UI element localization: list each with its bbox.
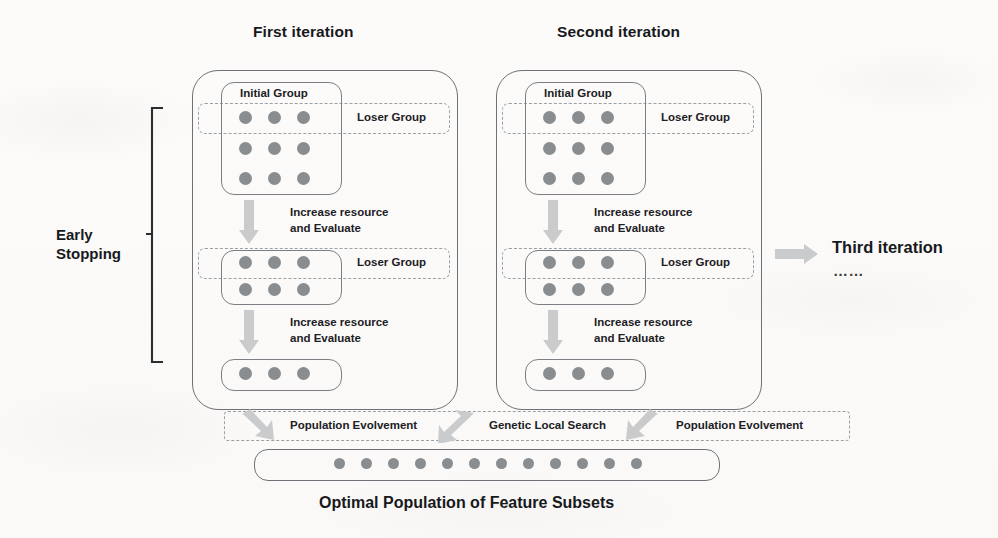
iteration-1-transition-1-arrow-icon bbox=[238, 200, 260, 249]
population-dot bbox=[601, 367, 614, 380]
population-dot bbox=[297, 283, 310, 296]
population-dot bbox=[239, 283, 252, 296]
iteration-2-transition-2-arrow-icon bbox=[542, 310, 564, 359]
population-dot bbox=[601, 111, 614, 124]
final-population-dot bbox=[523, 458, 534, 469]
iteration-2-stage-1-loser-group-label: Loser Group bbox=[661, 111, 730, 123]
final-population-dot bbox=[604, 458, 615, 469]
third-iteration-ellipsis: …… bbox=[833, 262, 864, 279]
final-population-dot bbox=[577, 458, 588, 469]
population-dot bbox=[297, 367, 310, 380]
population-dot bbox=[297, 256, 310, 269]
iteration-1-stage-1-group-label: Initial Group bbox=[240, 87, 308, 99]
population-dot bbox=[543, 283, 556, 296]
iteration-2-stage-1-group-label: Initial Group bbox=[544, 87, 612, 99]
third-iteration-arrow-icon bbox=[775, 243, 819, 269]
population-dot bbox=[268, 172, 281, 185]
population-dot bbox=[572, 283, 585, 296]
iteration-2-transition-2-label-line2: and Evaluate bbox=[594, 331, 665, 347]
population-dot bbox=[239, 142, 252, 155]
population-dot bbox=[601, 142, 614, 155]
early-stopping-bracket bbox=[145, 106, 171, 370]
population-dot bbox=[268, 283, 281, 296]
final-population-dot bbox=[388, 458, 399, 469]
population-dot bbox=[297, 172, 310, 185]
population-dot bbox=[543, 256, 556, 269]
population-dot bbox=[297, 142, 310, 155]
figure-caption: Optimal Population of Feature Subsets bbox=[319, 494, 614, 512]
population-dot bbox=[239, 256, 252, 269]
iteration-2-transition-1-label-line1: Increase resource bbox=[594, 205, 692, 221]
population-dot bbox=[572, 367, 585, 380]
final-population-dot bbox=[469, 458, 480, 469]
population-dot bbox=[572, 256, 585, 269]
evolution-band-label-1: Population Evolvement bbox=[290, 419, 417, 431]
iteration-2-transition-2-label-line1: Increase resource bbox=[594, 315, 692, 331]
final-population-dot bbox=[496, 458, 507, 469]
final-population-dot bbox=[442, 458, 453, 469]
evolution-band-label-3: Population Evolvement bbox=[676, 419, 803, 431]
population-dot bbox=[543, 367, 556, 380]
population-dot bbox=[543, 111, 556, 124]
population-dot bbox=[239, 111, 252, 124]
population-dot bbox=[268, 142, 281, 155]
iteration-1-transition-1-label-line1: Increase resource bbox=[290, 205, 388, 221]
iteration-title-second: Second iteration bbox=[557, 23, 680, 41]
iteration-1-transition-2-arrow-icon bbox=[238, 310, 260, 359]
population-dot bbox=[297, 111, 310, 124]
figure-canvas: First iteration Second iteration Early S… bbox=[0, 0, 998, 538]
population-dot bbox=[601, 283, 614, 296]
evolution-band-label-2: Genetic Local Search bbox=[489, 419, 606, 431]
iteration-1-stage-1-loser-group-label: Loser Group bbox=[357, 111, 426, 123]
iteration-1-transition-2-label-line2: and Evaluate bbox=[290, 331, 361, 347]
final-population-dot bbox=[550, 458, 561, 469]
population-dot bbox=[268, 111, 281, 124]
population-dot bbox=[572, 172, 585, 185]
population-dot bbox=[601, 172, 614, 185]
iteration-1-transition-1-label-line2: and Evaluate bbox=[290, 221, 361, 237]
population-evolvement-arrow-icon-right bbox=[624, 409, 664, 447]
early-stopping-label-line2: Stopping bbox=[56, 244, 121, 264]
iteration-2-transition-1-label-line2: and Evaluate bbox=[594, 221, 665, 237]
iteration-1-stage-2-loser-group-label: Loser Group bbox=[357, 256, 426, 268]
final-population-dot bbox=[415, 458, 426, 469]
final-population-dot bbox=[361, 458, 372, 469]
iteration-2-stage-2-loser-group-label: Loser Group bbox=[661, 256, 730, 268]
third-iteration-label: Third iteration bbox=[832, 238, 943, 257]
final-population-dot bbox=[334, 458, 345, 469]
iteration-title-first: First iteration bbox=[253, 23, 354, 41]
population-dot bbox=[543, 142, 556, 155]
population-dot bbox=[239, 172, 252, 185]
early-stopping-label-line1: Early bbox=[56, 225, 93, 245]
population-dot bbox=[268, 367, 281, 380]
optimal-population-box bbox=[254, 449, 720, 481]
iteration-2-transition-1-arrow-icon bbox=[542, 200, 564, 249]
population-dot bbox=[239, 367, 252, 380]
population-dot bbox=[268, 256, 281, 269]
iteration-1-transition-2-label-line1: Increase resource bbox=[290, 315, 388, 331]
genetic-local-search-arrow-icon-up bbox=[438, 409, 478, 447]
population-evolvement-arrow-icon-left bbox=[240, 409, 280, 447]
population-dot bbox=[601, 256, 614, 269]
population-dot bbox=[572, 142, 585, 155]
population-dot bbox=[572, 111, 585, 124]
final-population-dot bbox=[631, 458, 642, 469]
population-dot bbox=[543, 172, 556, 185]
